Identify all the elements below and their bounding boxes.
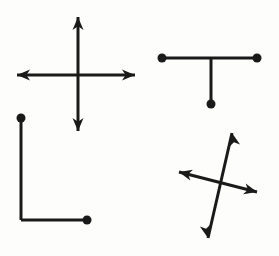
- four-way-arrow-cross: [17, 17, 135, 131]
- dot-horizontal-right: [83, 216, 92, 225]
- line-figures-svg: [0, 0, 279, 256]
- dot-vertical-top: [17, 114, 26, 123]
- dot-crossbar-left: [158, 54, 167, 63]
- dot-crossbar-right: [253, 54, 262, 63]
- figure-canvas: [0, 0, 279, 256]
- dot-stem-bottom: [207, 100, 216, 109]
- figures-layer: [17, 17, 262, 239]
- l-shape-with-dots: [17, 114, 92, 225]
- tilted-four-way-arrow-cross: [178, 132, 259, 239]
- t-shape-with-dots: [158, 54, 262, 109]
